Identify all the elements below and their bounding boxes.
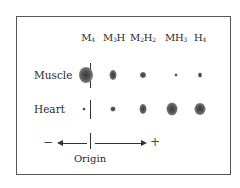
origin-line-heart (90, 100, 91, 119)
spot-heart-m2h2 (140, 104, 147, 114)
column-label-m2h2: M2H2 (130, 32, 156, 43)
column-label-mh3: MH3 (165, 32, 187, 43)
spot-muscle-m2h2 (140, 72, 146, 78)
negative-pole-sign: − (43, 135, 53, 149)
spot-muscle-h4 (198, 73, 202, 78)
arrow-right-icon (141, 140, 147, 146)
row-label-heart: Heart (34, 103, 65, 115)
spot-heart-m4 (83, 108, 86, 111)
spot-heart-m3h (111, 107, 116, 112)
column-label-m3h: M3H (103, 32, 125, 43)
spot-heart-h4 (195, 103, 206, 115)
origin-line-axis (90, 133, 91, 149)
spot-muscle-mh3 (175, 74, 178, 77)
arrow-left-line (60, 143, 87, 144)
row-label-muscle: Muscle (34, 69, 72, 81)
arrow-right-line (95, 143, 142, 144)
spot-muscle-m4 (79, 67, 93, 83)
spot-heart-mh3 (167, 103, 178, 116)
column-label-m4: M4 (81, 32, 95, 43)
column-label-h4: H4 (194, 32, 206, 43)
spot-muscle-m3h (110, 70, 117, 80)
positive-pole-sign: + (150, 135, 160, 149)
origin-label: Origin (74, 153, 106, 164)
